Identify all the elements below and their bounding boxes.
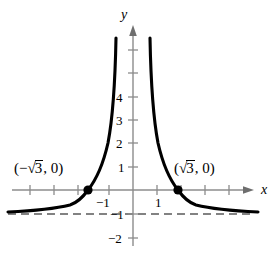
x-tick-label-1: 1 [155, 196, 162, 209]
x-tick-label-neg1: −1 [96, 196, 110, 209]
radicand-left: 3 [35, 160, 44, 176]
intercept-point-left [83, 185, 92, 194]
intercept-label-right-close: , 0) [195, 160, 215, 176]
curve-left-outer-branch [8, 190, 88, 212]
y-tick-label-2: 2 [116, 137, 123, 150]
intercept-label-right: (√3, 0) [174, 160, 215, 176]
intercept-label-left-close: , 0) [43, 160, 63, 176]
y-tick-label-1: 1 [118, 161, 125, 174]
y-tick-label-3: 3 [116, 114, 123, 127]
curve-right-outer-branch [178, 190, 258, 212]
curve-left-inner-branch [88, 38, 116, 190]
graph-figure: y x 4 3 2 1 −1 −2 −1 1 (−√3, 0) (√3, 0) [0, 0, 277, 255]
radicand-right: 3 [186, 160, 195, 176]
y-tick-label-neg1: −1 [110, 208, 124, 221]
sqrt-symbol-right: √3 [179, 160, 195, 176]
plot-canvas [0, 0, 277, 255]
y-tick-label-4: 4 [116, 91, 123, 104]
x-axis-label: x [261, 183, 267, 197]
y-axis-arrowhead [129, 25, 137, 36]
intercept-label-left: (−√3, 0) [14, 160, 63, 176]
y-axis-label: y [121, 8, 127, 22]
sqrt-symbol-left: √3 [27, 160, 43, 176]
y-tick-label-neg2: −2 [108, 232, 122, 245]
intercept-point-right [173, 185, 182, 194]
x-axis-arrowhead [243, 186, 254, 194]
intercept-label-left-open: (− [14, 160, 27, 176]
